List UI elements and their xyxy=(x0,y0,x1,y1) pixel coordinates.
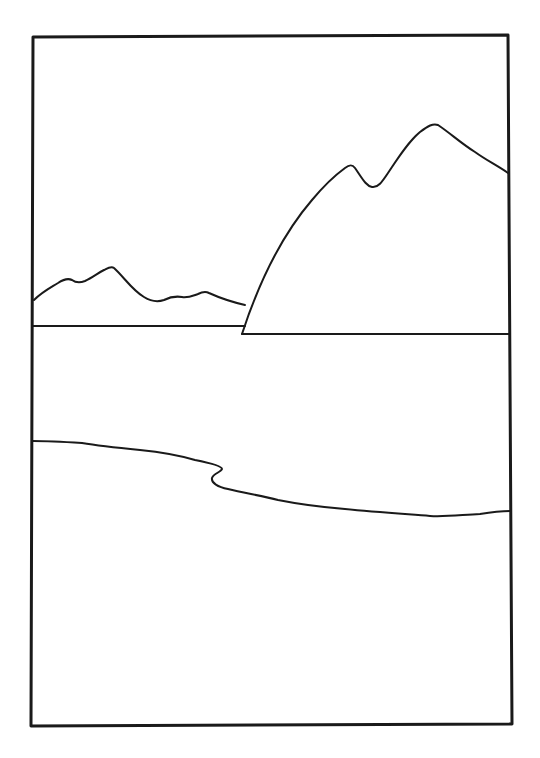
picture-frame xyxy=(31,35,512,726)
large-mountain xyxy=(242,124,508,334)
shoreline xyxy=(33,441,510,516)
distant-hills xyxy=(34,267,245,305)
landscape-drawing xyxy=(0,0,540,758)
